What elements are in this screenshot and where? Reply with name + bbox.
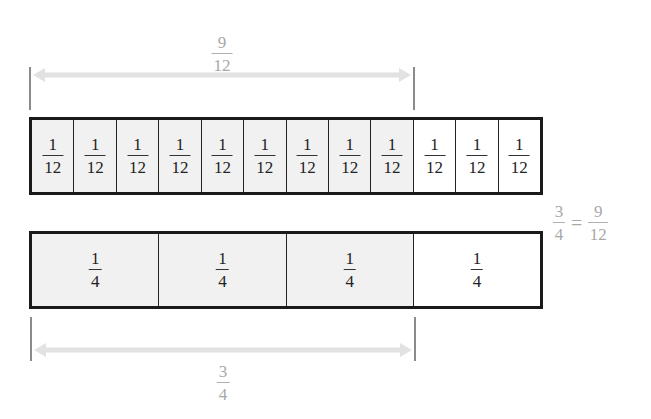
fraction-bar — [471, 269, 484, 270]
cell-fraction: 112 — [297, 136, 318, 176]
twelfths-cell: 112 — [287, 120, 329, 192]
bottom-label-numerator: 3 — [217, 363, 230, 380]
fraction-bar — [169, 155, 190, 156]
equation-left-fraction: 3 4 — [553, 203, 565, 243]
cell-denominator: 12 — [169, 159, 190, 176]
cell-denominator: 12 — [509, 159, 530, 176]
fourths-strip: 14141414 — [29, 231, 543, 309]
fraction-bar — [254, 155, 275, 156]
twelfths-strip: 112112112112112112112112112112112112 — [29, 117, 543, 195]
fraction-bar — [212, 53, 233, 54]
cell-fraction: 14 — [343, 250, 356, 290]
cell-fraction: 112 — [127, 136, 148, 176]
cell-numerator: 1 — [131, 136, 144, 153]
cell-numerator: 1 — [216, 250, 229, 267]
fraction-bar — [42, 155, 63, 156]
cell-numerator: 1 — [428, 136, 441, 153]
fraction-bar — [343, 269, 356, 270]
twelfths-cell: 112 — [414, 120, 456, 192]
twelfths-cell: 112 — [117, 120, 159, 192]
cell-denominator: 12 — [339, 159, 360, 176]
fourths-cell: 14 — [32, 234, 159, 306]
cell-denominator: 12 — [424, 159, 445, 176]
twelfths-cell: 112 — [244, 120, 286, 192]
equation-left-denominator: 4 — [555, 226, 564, 243]
twelfths-cell: 112 — [32, 120, 74, 192]
cell-fraction: 112 — [339, 136, 360, 176]
fraction-bar — [127, 155, 148, 156]
cell-numerator: 1 — [343, 250, 356, 267]
bottom-double-arrow-icon — [32, 342, 414, 358]
fraction-bar — [509, 155, 530, 156]
cell-fraction: 14 — [89, 250, 102, 290]
cell-numerator: 1 — [216, 136, 229, 153]
cell-numerator: 1 — [259, 136, 272, 153]
cell-numerator: 1 — [174, 136, 187, 153]
cell-denominator: 4 — [216, 273, 229, 290]
twelfths-cell: 112 — [74, 120, 116, 192]
cell-denominator: 12 — [254, 159, 275, 176]
cell-numerator: 1 — [343, 136, 356, 153]
cell-fraction: 112 — [169, 136, 190, 176]
cell-numerator: 1 — [386, 136, 399, 153]
twelfths-cell: 112 — [456, 120, 498, 192]
cell-denominator: 12 — [42, 159, 63, 176]
equation-right-denominator: 12 — [590, 226, 607, 243]
twelfths-cell: 112 — [202, 120, 244, 192]
cell-numerator: 1 — [89, 250, 102, 267]
cell-fraction: 112 — [85, 136, 106, 176]
cell-denominator: 12 — [85, 159, 106, 176]
cell-numerator: 1 — [513, 136, 526, 153]
cell-fraction: 112 — [509, 136, 530, 176]
top-right-tick — [413, 67, 415, 110]
fraction-bar — [424, 155, 445, 156]
equals-sign: = — [571, 212, 582, 235]
top-double-arrow-icon — [31, 67, 413, 83]
fraction-bar — [466, 155, 487, 156]
bottom-span-label: 3 4 — [217, 363, 230, 403]
fraction-bar — [588, 222, 608, 223]
cell-fraction: 112 — [42, 136, 63, 176]
cell-fraction: 14 — [216, 250, 229, 290]
bottom-label-denominator: 4 — [217, 386, 230, 403]
fraction-bar — [216, 269, 229, 270]
fraction-bar — [217, 382, 230, 383]
cell-fraction: 112 — [466, 136, 487, 176]
cell-denominator: 12 — [212, 159, 233, 176]
cell-fraction: 112 — [382, 136, 403, 176]
fourths-cell: 14 — [287, 234, 414, 306]
fraction-bar — [212, 155, 233, 156]
bottom-right-tick — [414, 317, 416, 361]
cell-numerator: 1 — [471, 136, 484, 153]
twelfths-cell: 112 — [159, 120, 201, 192]
top-label-numerator: 9 — [216, 34, 229, 51]
cell-fraction: 112 — [254, 136, 275, 176]
fraction-bar — [339, 155, 360, 156]
cell-fraction: 112 — [212, 136, 233, 176]
fraction-bar — [297, 155, 318, 156]
cell-denominator: 12 — [466, 159, 487, 176]
twelfths-cell: 112 — [329, 120, 371, 192]
cell-numerator: 1 — [46, 136, 59, 153]
fraction-bar — [553, 222, 565, 223]
twelfths-cell: 112 — [371, 120, 413, 192]
fraction-bar — [89, 269, 102, 270]
cell-numerator: 1 — [301, 136, 314, 153]
equation-right-numerator: 9 — [594, 203, 603, 220]
cell-denominator: 12 — [127, 159, 148, 176]
fraction-bar — [382, 155, 403, 156]
cell-denominator: 4 — [343, 273, 356, 290]
cell-denominator: 4 — [471, 273, 484, 290]
cell-fraction: 112 — [424, 136, 445, 176]
equivalence-equation: 3 4 = 9 12 — [553, 203, 608, 243]
fraction-bar — [85, 155, 106, 156]
cell-denominator: 12 — [382, 159, 403, 176]
equation-left-numerator: 3 — [555, 203, 564, 220]
cell-fraction: 14 — [471, 250, 484, 290]
cell-denominator: 4 — [89, 273, 102, 290]
fourths-cell: 14 — [159, 234, 286, 306]
fourths-cell: 14 — [414, 234, 540, 306]
equation-right-fraction: 9 12 — [588, 203, 608, 243]
twelfths-cell: 112 — [499, 120, 540, 192]
cell-numerator: 1 — [89, 136, 102, 153]
